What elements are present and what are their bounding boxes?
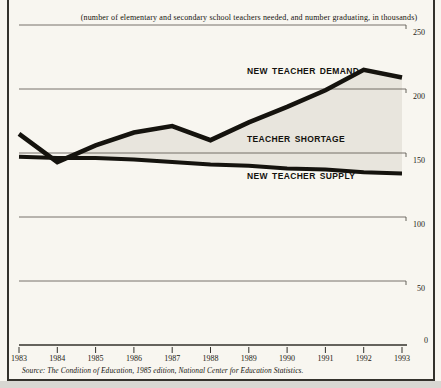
y-axis-label-250: 250: [405, 28, 425, 37]
x-axis-label-1989: 1989: [232, 354, 266, 363]
teacher-supply-demand-chart: (number of elementary and secondary scho…: [0, 0, 441, 388]
y-axis-label-100: 100: [405, 220, 425, 229]
y-axis-label-0: 0: [408, 336, 428, 345]
frame-border-left: [7, 0, 9, 381]
y-axis-label-50: 50: [405, 284, 425, 293]
demand-series-label: NEW TEACHER DEMAND: [247, 66, 359, 76]
x-axis-label-1991: 1991: [308, 354, 342, 363]
chart-plot-area: [0, 0, 441, 388]
y-axis-label-200: 200: [405, 92, 425, 101]
frame-border-right: [433, 0, 435, 381]
x-axis-label-1983: 1983: [2, 354, 36, 363]
x-axis-label-1992: 1992: [347, 354, 381, 363]
x-axis-label-1987: 1987: [155, 354, 189, 363]
x-axis-label-1993: 1993: [385, 354, 419, 363]
y-axis-label-150: 150: [405, 156, 425, 165]
x-axis-label-1985: 1985: [79, 354, 113, 363]
x-axis-label-1990: 1990: [270, 354, 304, 363]
source-note: Source: The Condition of Education, 1985…: [22, 366, 303, 375]
chart-subtitle: (number of elementary and secondary scho…: [68, 13, 430, 22]
supply-series-label: NEW TEACHER SUPPLY: [247, 171, 355, 181]
x-axis-label-1988: 1988: [194, 354, 228, 363]
x-axis-label-1986: 1986: [117, 354, 151, 363]
shortage-area-label: TEACHER SHORTAGE: [247, 134, 345, 144]
page-edge-strip: [0, 381, 441, 388]
x-axis-label-1984: 1984: [40, 354, 74, 363]
